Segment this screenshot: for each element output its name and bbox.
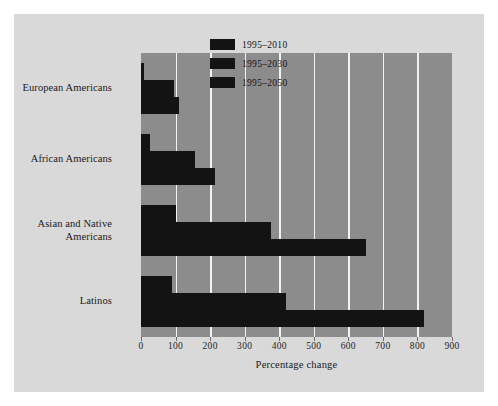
- category-label: Latinos: [0, 295, 112, 308]
- category-label-line: African Americans: [0, 153, 112, 166]
- bar: [141, 80, 174, 97]
- category-label: European Americans: [0, 82, 112, 95]
- gridline-600: [348, 53, 350, 337]
- bar: [141, 97, 179, 114]
- legend-item: 1995–2030: [210, 54, 312, 73]
- gridline-800: [417, 53, 419, 337]
- gridline-500: [314, 53, 316, 337]
- legend-label: 1995–2030: [242, 59, 287, 69]
- plot-area: [141, 53, 452, 337]
- bar: [141, 239, 366, 256]
- chart-legend: 1995–20101995–20301995–2050: [210, 35, 312, 92]
- bar: [141, 222, 271, 239]
- category-label: African Americans: [0, 153, 112, 166]
- bar: [141, 151, 195, 168]
- legend-label: 1995–2050: [242, 78, 287, 88]
- legend-item: 1995–2050: [210, 73, 312, 92]
- category-label-line: European Americans: [0, 82, 112, 95]
- bar: [141, 63, 144, 80]
- chart-figure: European AmericansAfrican AmericansAsian…: [14, 14, 484, 392]
- x-axis-title: Percentage change: [141, 359, 452, 370]
- category-label-line: Asian and Native: [0, 218, 112, 231]
- bar: [141, 293, 286, 310]
- bar: [141, 276, 172, 293]
- legend-swatch: [210, 39, 235, 50]
- legend-label: 1995–2010: [242, 40, 287, 50]
- bar: [141, 168, 215, 185]
- bar: [141, 134, 150, 151]
- gridline-700: [383, 53, 385, 337]
- tick-label-900: 900: [432, 341, 472, 351]
- bar: [141, 310, 424, 327]
- legend-swatch: [210, 58, 235, 69]
- bar: [141, 205, 176, 222]
- category-label: Asian and NativeAmericans: [0, 218, 112, 243]
- legend-item: 1995–2010: [210, 35, 312, 54]
- category-label-line: Americans: [0, 231, 112, 244]
- category-label-line: Latinos: [0, 295, 112, 308]
- legend-swatch: [210, 77, 235, 88]
